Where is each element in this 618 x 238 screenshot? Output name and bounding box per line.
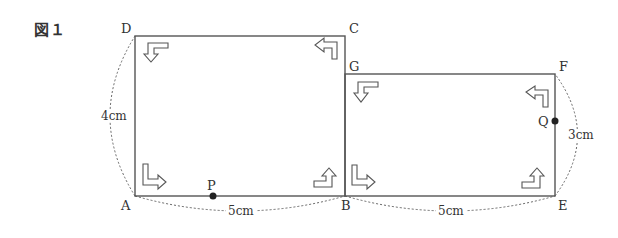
arrow-down-icon — [144, 43, 168, 62]
rectangle-GBEF — [345, 74, 555, 196]
arrow-up-icon — [314, 168, 336, 187]
label-B: B — [341, 199, 351, 212]
label-D: D — [121, 22, 131, 35]
label-P: P — [207, 179, 216, 192]
arrow-right-icon — [143, 164, 166, 189]
label-A: A — [121, 199, 130, 212]
measure-BE: 5cm — [436, 205, 466, 217]
label-E: E — [558, 199, 568, 212]
label-F: F — [559, 60, 568, 73]
label-C: C — [349, 22, 359, 35]
label-Q: Q — [538, 115, 549, 128]
arrow-down-icon — [354, 82, 378, 102]
rectangle-ABCD — [135, 36, 345, 196]
point-Q — [552, 118, 559, 125]
measure-EF: 3cm — [566, 129, 596, 141]
arrow-left-icon — [526, 86, 548, 107]
measure-AD: 4cm — [99, 110, 129, 122]
label-G: G — [349, 60, 359, 73]
arrow-right-icon — [352, 165, 375, 189]
geometry-figure — [0, 0, 618, 238]
arrow-up-icon — [522, 168, 544, 188]
measure-AB: 5cm — [226, 205, 256, 217]
point-P — [210, 193, 217, 200]
arrow-left-icon — [315, 38, 337, 59]
